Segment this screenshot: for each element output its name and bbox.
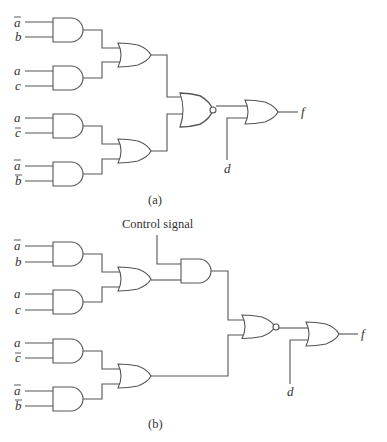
wires-and-to-or-1 (83, 30, 121, 78)
and-gate-4 (53, 162, 83, 186)
or-gate-1 (118, 267, 151, 291)
wire-d-input (290, 340, 309, 384)
input-label-c: c (15, 302, 21, 317)
wires-and-to-or-2 (83, 351, 121, 399)
input-label-b: b (15, 29, 22, 44)
or-gate-2 (118, 364, 151, 388)
panel-a: a b a c a c a b f d (14, 15, 307, 207)
panel-b: Control signal a b a c a c a b (14, 217, 367, 431)
and-gate-2 (53, 290, 83, 314)
input-label-d: d (224, 161, 231, 176)
output-label-f: f (361, 326, 367, 341)
wire-control-signal (157, 235, 181, 264)
and-gate-1 (53, 18, 83, 42)
input-label-a: a (14, 63, 21, 78)
input-label-a: a (14, 110, 21, 125)
input-label-b: b (15, 254, 22, 269)
input-label-c-bar: c (15, 125, 21, 140)
and-gate-4 (53, 387, 83, 411)
and-gate-2 (53, 66, 83, 90)
final-or-gate (245, 100, 278, 124)
and-gate-1 (53, 242, 83, 266)
wires-or-to-nor (151, 55, 183, 151)
nor-bubble (210, 107, 216, 113)
input-wires (25, 22, 53, 181)
caption-b: (b) (148, 417, 163, 431)
or-gate-1 (118, 43, 151, 67)
wire-and-to-nor (211, 271, 245, 320)
and-gate-3 (53, 114, 83, 138)
wire-or-to-nor (151, 335, 245, 376)
nor-gate (242, 315, 275, 339)
input-label-c: c (15, 78, 21, 93)
wires-and-to-or-1 (83, 254, 121, 302)
input-wires (25, 246, 53, 406)
nor-gate (180, 93, 213, 127)
control-and-gate (181, 259, 211, 283)
caption-a: (a) (148, 193, 162, 207)
wires-and-to-or-2 (83, 126, 121, 174)
control-signal-label: Control signal (122, 217, 194, 231)
input-label-c-bar: c (15, 350, 21, 365)
nor-bubble (273, 324, 279, 330)
and-gate-3 (53, 339, 83, 363)
input-label-d: d (287, 384, 294, 399)
or-gate-2 (118, 139, 151, 163)
input-label-a: a (14, 335, 21, 350)
logic-circuit-diagram: a b a c a c a b f d (0, 0, 387, 442)
final-or-gate (306, 322, 339, 346)
output-label-f: f (301, 104, 307, 119)
input-label-a: a (14, 286, 21, 301)
